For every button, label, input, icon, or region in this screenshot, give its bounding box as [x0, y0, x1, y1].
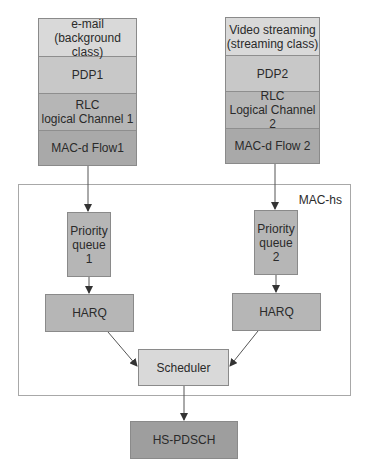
arrow-harq1-to-scheduler: [108, 332, 137, 366]
connector-arrows: [0, 0, 367, 473]
arrow-harq2-to-scheduler: [230, 331, 258, 366]
